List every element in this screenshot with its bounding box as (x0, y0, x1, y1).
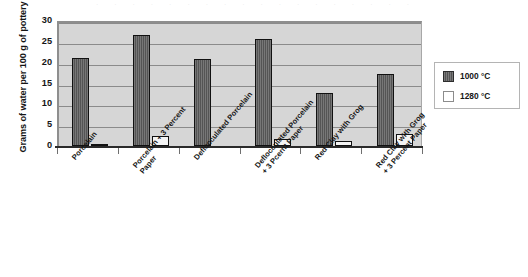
x-axis-tick (300, 148, 301, 154)
y-tick-label: 20 (26, 58, 52, 67)
y-tick-label: 15 (26, 79, 52, 88)
bar-1000c (72, 58, 89, 146)
scan-bleed-artifact: · · · · · · · · · · · · · · · · · · (96, 1, 486, 10)
bar-1000c (377, 74, 394, 146)
legend-item-1280c: 1280 °C (443, 89, 490, 103)
bar-1000c (255, 39, 272, 147)
plot-inner (59, 23, 421, 146)
y-tick-label: 25 (26, 37, 52, 46)
legend-label-1000c: 1000 °C (460, 71, 490, 81)
x-axis-tick (361, 148, 362, 154)
bar-chart-figure: · · · · · · · · · · · · · · · · · · Gram… (0, 0, 528, 277)
legend-item-1000c: 1000 °C (443, 69, 490, 83)
x-axis-tick (179, 148, 180, 154)
y-tick-label: 0 (26, 141, 52, 150)
x-axis-tick (118, 148, 119, 154)
legend-swatch-1280c (443, 91, 454, 102)
bar-group (302, 23, 363, 146)
bar-1000c (194, 59, 211, 147)
x-axis-tick (422, 148, 423, 154)
y-tick-label: 10 (26, 99, 52, 108)
legend-swatch-1000c (443, 71, 454, 82)
legend-label-1280c: 1280 °C (460, 91, 490, 101)
y-axis-tick-labels: 051015202530 (26, 16, 52, 149)
bar-group (59, 23, 120, 146)
y-tick-label: 30 (26, 16, 52, 25)
y-tick-label: 5 (26, 120, 52, 129)
bar-1000c (133, 35, 150, 146)
plot-area (57, 21, 422, 146)
x-axis-tick (240, 148, 241, 154)
chart-legend: 1000 °C 1280 °C (434, 62, 520, 109)
x-axis-tick (57, 148, 58, 154)
bar-group (181, 23, 242, 146)
